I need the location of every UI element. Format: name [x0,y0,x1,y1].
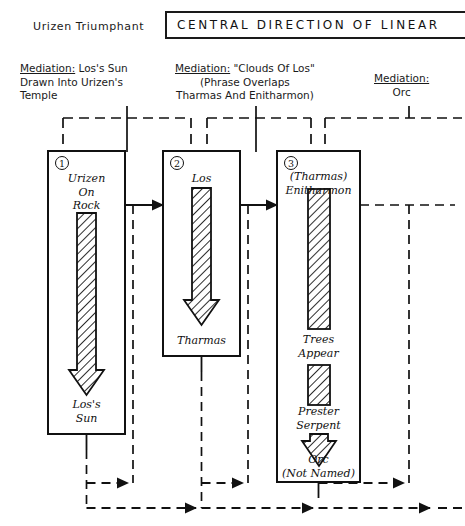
column-1-number: 1 [55,156,69,170]
column-2-top-label: Los [163,172,240,186]
column-2-number: 2 [170,156,184,170]
trees-bar [308,365,330,405]
los-to-tharmas-arrow [184,188,219,325]
column-3-number: 3 [284,156,298,170]
diagram-canvas [0,0,465,526]
column-3-stage-label-trees: Trees Appear [277,333,360,360]
column-1-top-label: Urizen On Rock [48,172,125,213]
column-2-stage-label-tharmas: Tharmas [163,334,240,348]
top-dashed-bus [63,118,462,152]
column-1-stage-label-los-sun: Los's Sun [48,398,125,425]
urizen-to-los-sun-arrow [69,213,104,395]
mediation-stems [127,106,409,152]
column-3-stage-label-prester: Prester Serpent [277,405,360,432]
enitharmon-bar [308,189,330,329]
diagram-page: Urizen Triumphant CENTRAL DIRECTION OF L… [0,0,465,526]
column-3-stage-label-orc: Orc (Not Named) [277,453,360,480]
column-3-top-label: (Tharmas) Enitharmon [277,170,360,197]
